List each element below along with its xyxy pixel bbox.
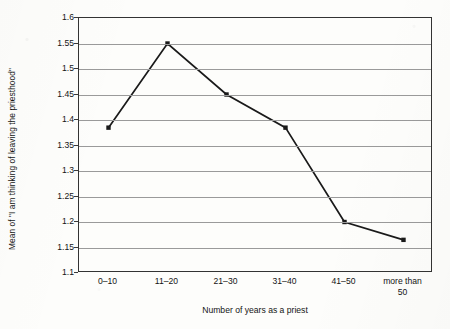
gridline	[79, 171, 431, 172]
gridline	[79, 44, 431, 45]
y-tick-mark	[74, 221, 78, 222]
y-tick-mark	[74, 196, 78, 197]
series-line	[109, 44, 404, 240]
y-tick-mark	[74, 17, 78, 18]
gridline	[79, 222, 431, 223]
y-tick-mark	[74, 94, 78, 95]
gridline	[79, 146, 431, 147]
y-tick-label: 1.25	[44, 191, 74, 200]
y-tick-mark	[74, 43, 78, 44]
y-axis-tick-labels: 1.61.551.51.451.41.351.31.251.21.151.1	[44, 17, 74, 272]
y-tick-label: 1.45	[44, 89, 74, 98]
gridline	[79, 95, 431, 96]
y-tick-label: 1.3	[44, 166, 74, 175]
plot-area	[78, 17, 432, 272]
x-tick-label: more than50	[368, 276, 438, 297]
y-tick-label: 1.6	[44, 13, 74, 22]
y-tick-mark	[74, 145, 78, 146]
y-axis-title: Mean of "I am thinking of leaving the pr…	[1, 32, 23, 287]
gridline	[79, 248, 431, 249]
gridline	[79, 197, 431, 198]
y-tick-label: 1.5	[44, 64, 74, 73]
y-tick-mark	[74, 170, 78, 171]
y-tick-label: 1.55	[44, 38, 74, 47]
y-tick-label: 1.4	[44, 115, 74, 124]
y-tick-mark	[74, 272, 78, 273]
x-axis-tick-labels: 0–1011–2021–3031–4041–50more than50	[78, 276, 432, 306]
data-point-marker	[401, 238, 405, 242]
y-tick-mark	[74, 119, 78, 120]
y-tick-label: 1.15	[44, 242, 74, 251]
y-tick-mark	[74, 247, 78, 248]
x-axis-title: Number of years as a priest	[78, 305, 432, 315]
y-tick-mark	[74, 68, 78, 69]
y-tick-label: 1.2	[44, 217, 74, 226]
data-point-marker	[106, 125, 110, 129]
y-tick-label: 1.35	[44, 140, 74, 149]
gridline	[79, 120, 431, 121]
gridline	[79, 69, 431, 70]
data-point-marker	[283, 125, 287, 129]
y-tick-label: 1.1	[44, 268, 74, 277]
chart-page: Mean of "I am thinking of leaving the pr…	[0, 0, 450, 329]
